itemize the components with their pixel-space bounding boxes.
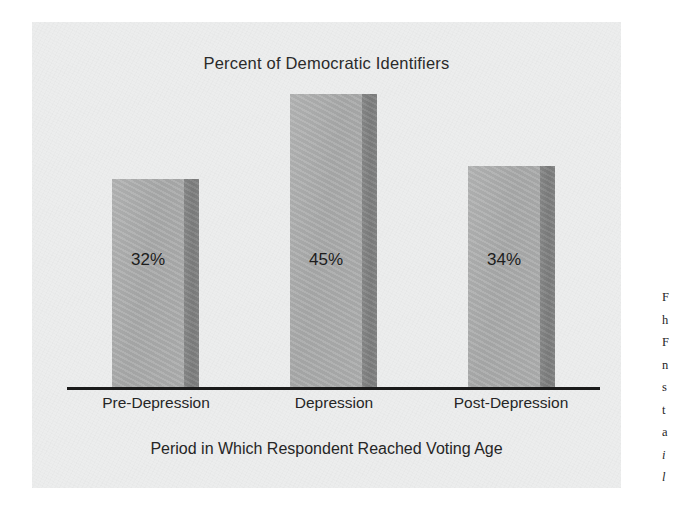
bar-front-face: [112, 179, 184, 387]
plot-area: 32%45%34%: [67, 62, 600, 387]
bar-value-label: 32%: [112, 250, 184, 270]
bar-pre-depression: 32%: [112, 179, 199, 387]
x-axis-title: Period in Which Respondent Reached Votin…: [32, 440, 621, 458]
x-tick-label-post-depression: Post-Depression: [422, 394, 600, 412]
bar-post-depression: 34%: [468, 166, 555, 387]
x-axis-line: [67, 387, 600, 390]
bar-front-face: [290, 94, 362, 387]
side-text-line: h: [662, 309, 694, 332]
bar-front-face: [468, 166, 540, 387]
x-tick-label-pre-depression: Pre-Depression: [67, 394, 245, 412]
side-text-line: F: [662, 286, 694, 309]
bar-side-face: [362, 94, 377, 387]
side-text-line: l: [662, 466, 694, 489]
side-text-line: t: [662, 399, 694, 422]
bar-value-label: 34%: [468, 250, 540, 270]
bar-depression: 45%: [290, 94, 377, 387]
bar-side-face: [184, 179, 199, 387]
x-tick-label-depression: Depression: [245, 394, 423, 412]
side-body-text-column: FhFnstail: [662, 286, 694, 501]
side-text-line: F: [662, 331, 694, 354]
bar-side-face: [540, 166, 555, 387]
figure-container: Percent of Democratic Identifiers 32%45%…: [0, 0, 694, 522]
side-text-line: n: [662, 354, 694, 377]
side-text-line: s: [662, 376, 694, 399]
side-text-line: i: [662, 444, 694, 467]
bar-value-label: 45%: [290, 250, 362, 270]
side-text-line: a: [662, 421, 694, 444]
chart-panel: Percent of Democratic Identifiers 32%45%…: [32, 22, 621, 488]
